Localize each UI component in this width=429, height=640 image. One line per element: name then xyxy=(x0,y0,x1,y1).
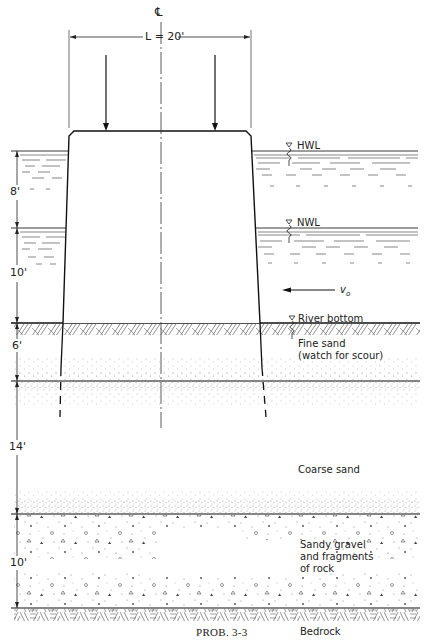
gravel-label-2: and fragments xyxy=(300,551,373,563)
width-label: L = 20' xyxy=(145,31,184,43)
velocity-arrowhead-icon xyxy=(282,288,291,293)
fine-sand-label-2: (watch for scour) xyxy=(298,350,383,362)
velocity-subscript: o xyxy=(346,290,350,298)
centerline-symbol: ℄ xyxy=(155,6,163,18)
coarse-sand-bottom-stipple xyxy=(14,500,420,514)
river-bottom-label: River bottom xyxy=(298,313,363,325)
nwl-label: NWL xyxy=(297,217,320,229)
dim-10ft-water: 10' xyxy=(10,267,27,279)
gravel-lower xyxy=(14,572,420,608)
bedrock-hatch xyxy=(14,609,420,621)
coarse-sand-label: Coarse sand xyxy=(298,464,360,476)
dim-10ft-gravel: 10' xyxy=(10,557,27,569)
hwl-label: HWL xyxy=(297,140,320,152)
dim-14ft: 14' xyxy=(9,441,26,453)
pier-outline xyxy=(63,131,260,323)
fine-sand-label-1: Fine sand xyxy=(298,338,346,350)
hwl-symbol-icon xyxy=(286,143,292,166)
figure-caption: PROB. 3-3 xyxy=(196,626,248,638)
velocity-label: vo xyxy=(340,284,350,300)
nwl-symbol-icon xyxy=(286,220,292,243)
gravel-label-3: of rock xyxy=(300,563,334,575)
riverbed-hatch xyxy=(14,324,420,335)
water-right xyxy=(254,155,418,263)
gravel-label-1: Sandy gravel xyxy=(300,539,366,551)
water-left xyxy=(20,155,68,264)
dim-6ft: 6' xyxy=(12,340,22,352)
coarse-sand-top-stipple xyxy=(14,381,420,391)
bedrock-label: Bedrock xyxy=(300,626,341,638)
dim-8ft: 8' xyxy=(10,186,20,198)
